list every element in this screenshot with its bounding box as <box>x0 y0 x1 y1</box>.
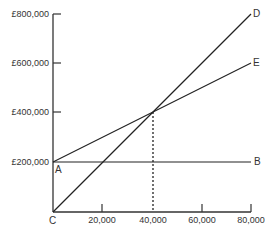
point-label-b: B <box>254 156 261 167</box>
y-tick-label: £200,000 <box>11 157 49 167</box>
point-label-e: E <box>253 57 260 68</box>
x-tick-label: 20,000 <box>88 215 116 225</box>
x-tick-label: 60,000 <box>188 215 216 225</box>
chart: £800,000 £600,000 £400,000 £200,000 20,0… <box>0 0 275 234</box>
point-label-a: A <box>55 164 62 175</box>
x-ticks: 20,000 40,000 60,000 80,000 <box>88 204 265 225</box>
y-tick-label: £400,000 <box>11 107 49 117</box>
y-tick-label: £600,000 <box>11 58 49 68</box>
line-ae <box>53 63 251 162</box>
point-label-c: C <box>49 215 56 226</box>
y-tick-label: £800,000 <box>11 9 49 19</box>
point-label-d: D <box>253 8 260 19</box>
x-tick-label: 40,000 <box>139 215 167 225</box>
x-tick-label: 80,000 <box>237 215 265 225</box>
